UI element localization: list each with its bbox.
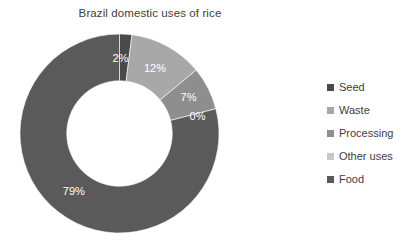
chart-legend: SeedWasteProcessingOther usesFood	[327, 76, 413, 191]
slice-value-label-food: 79%	[63, 185, 85, 197]
slice-value-label-processing: 7%	[181, 91, 197, 103]
legend-item-food[interactable]: Food	[327, 168, 413, 191]
legend-item-label: Food	[339, 174, 364, 185]
legend-item-label: Seed	[339, 82, 365, 93]
legend-item-label: Other uses	[339, 151, 393, 162]
legend-item-processing[interactable]: Processing	[327, 122, 413, 145]
donut-plot-area: 2%12%7%0%79%	[20, 34, 219, 233]
chart-title: Brazil domestic uses of rice	[0, 7, 300, 19]
legend-item-seed[interactable]: Seed	[327, 76, 413, 99]
legend-swatch-icon	[327, 130, 334, 137]
legend-swatch-icon	[327, 84, 334, 91]
slice-value-label-other-uses: 0%	[190, 110, 206, 122]
donut-chart: Brazil domestic uses of rice 2%12%7%0%79…	[0, 0, 414, 247]
legend-item-label: Waste	[339, 105, 370, 116]
legend-swatch-icon	[327, 107, 334, 114]
legend-item-label: Processing	[339, 128, 393, 139]
legend-swatch-icon	[327, 176, 334, 183]
donut-svg: 2%12%7%0%79%	[20, 34, 219, 233]
slice-value-label-seed: 2%	[112, 52, 128, 64]
legend-item-waste[interactable]: Waste	[327, 99, 413, 122]
legend-swatch-icon	[327, 153, 334, 160]
slice-value-label-waste: 12%	[144, 62, 166, 74]
legend-item-other-uses[interactable]: Other uses	[327, 145, 413, 168]
